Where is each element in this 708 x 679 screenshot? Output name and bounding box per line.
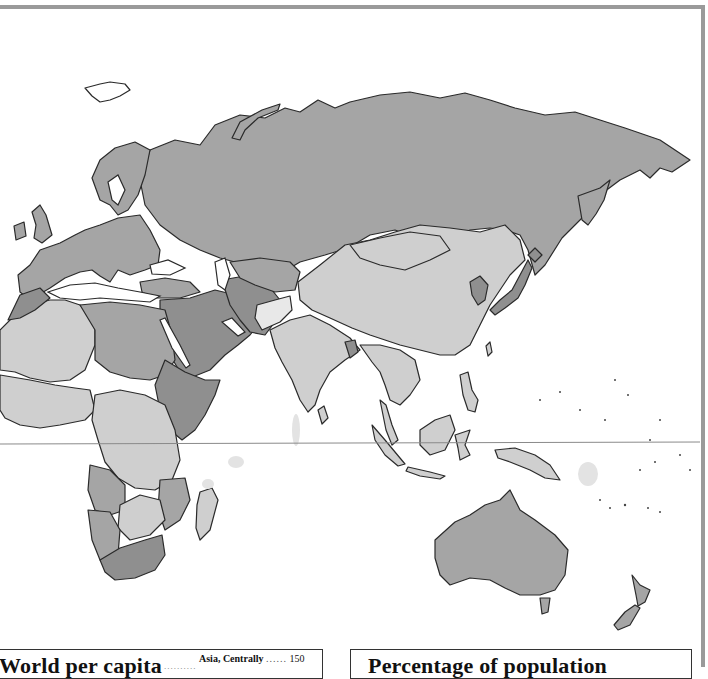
pacific-islets	[539, 379, 691, 513]
java	[406, 467, 445, 479]
sri-lanka	[318, 406, 328, 424]
borneo	[420, 415, 455, 455]
seychelles	[228, 456, 244, 468]
legend-entry-label: Asia, Centrally	[199, 653, 263, 664]
legend-per-capita: World per capita .......... Asia, Centra…	[0, 649, 323, 679]
scandinavia	[92, 142, 150, 215]
legend-entry-asia-centrally: Asia, Centrally ...... 150	[199, 653, 304, 664]
australia	[435, 490, 568, 595]
comoros	[202, 479, 214, 489]
svalbard	[85, 82, 130, 102]
sulawesi	[455, 430, 470, 460]
philippines	[460, 372, 478, 412]
madagascar	[196, 488, 218, 540]
taiwan	[486, 342, 492, 356]
new-zealand-north	[632, 575, 650, 606]
leader-dots: ..........	[164, 661, 197, 671]
legend-population-percentage: Percentage of population	[350, 649, 692, 679]
legend-entry-dots: ......	[266, 653, 287, 664]
united-kingdom	[32, 205, 52, 243]
legend-title-population: Percentage of population	[368, 653, 607, 679]
page-frame-right	[701, 5, 705, 667]
south-asia	[270, 315, 360, 412]
new-zealand-south	[614, 605, 640, 630]
new-guinea	[495, 448, 560, 480]
legend-title-per-capita: World per capita	[0, 653, 162, 679]
legend-entry-value: 150	[289, 653, 304, 664]
ireland	[14, 222, 26, 240]
tasmania	[540, 598, 550, 614]
page-frame-top	[0, 5, 704, 9]
maldives	[292, 414, 300, 446]
west-africa	[0, 375, 95, 428]
southeast-asia	[360, 345, 420, 405]
solomon-islands	[578, 462, 598, 486]
